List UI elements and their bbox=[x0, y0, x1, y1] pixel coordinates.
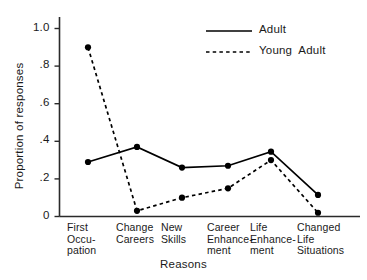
series-line-young-adult bbox=[88, 47, 318, 212]
data-point-marker bbox=[179, 195, 185, 201]
legend-label-adult: Adult bbox=[259, 23, 286, 35]
data-point-marker bbox=[225, 163, 231, 169]
data-point-marker bbox=[134, 208, 140, 214]
legend-label-young-adult: Young Adult bbox=[259, 44, 326, 56]
series-line-adult bbox=[88, 147, 318, 195]
x-axis-category-label: Life Enhance- ment bbox=[250, 222, 296, 257]
data-point-marker bbox=[268, 149, 274, 155]
y-axis-title: Proportion of responses bbox=[13, 36, 25, 216]
data-point-marker bbox=[268, 157, 274, 163]
data-series-group bbox=[85, 44, 321, 216]
x-axis-category-label: Career Enhance- ment bbox=[207, 222, 253, 257]
data-point-marker bbox=[315, 192, 321, 198]
data-point-marker bbox=[315, 210, 321, 216]
data-point-marker bbox=[85, 159, 91, 165]
data-point-marker bbox=[179, 165, 185, 171]
x-axis-category-label: First Occu- pation bbox=[67, 222, 96, 257]
y-axis-tick-label: 1.0 bbox=[16, 21, 50, 33]
chart-container: 0.2.4.6.81.0 First Occu- pationChange Ca… bbox=[0, 0, 367, 280]
x-axis-category-label: New Skills bbox=[161, 222, 186, 245]
x-axis-category-label: Changed Life Situations bbox=[297, 222, 344, 257]
data-point-marker bbox=[134, 144, 140, 150]
x-axis-category-label: Change Careers bbox=[116, 222, 154, 245]
x-axis-title: Reasons bbox=[0, 258, 367, 270]
legend-line-samples bbox=[206, 31, 252, 52]
data-point-marker bbox=[225, 185, 231, 191]
data-point-marker bbox=[85, 44, 91, 50]
